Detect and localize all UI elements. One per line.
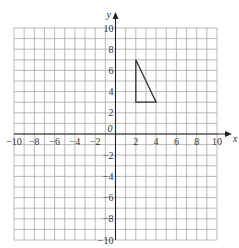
x-tick-label: 10: [212, 136, 222, 147]
x-tick-label: −2: [90, 136, 101, 147]
y-tick-label: 2: [109, 107, 114, 118]
x-tick-label: 2: [133, 136, 138, 147]
x-axis-arrow-icon: [225, 131, 232, 137]
y-tick-label: −4: [103, 171, 114, 182]
y-tick-label: −6: [103, 192, 114, 203]
y-tick-label: −2: [103, 150, 114, 161]
y-tick-label: 6: [109, 65, 114, 76]
x-tick-label: 6: [174, 136, 179, 147]
y-axis-arrow-icon: [113, 12, 119, 19]
x-tick-label: −8: [29, 136, 40, 147]
x-tick-label: 8: [194, 136, 199, 147]
x-tick-label: −10: [6, 136, 22, 147]
y-axis-label: y: [106, 9, 112, 20]
x-tick-label: 4: [154, 136, 159, 147]
y-tick-label: 4: [109, 86, 114, 97]
y-tick-label: 8: [109, 44, 114, 55]
y-tick-label: 10: [104, 23, 114, 34]
coordinate-grid-figure: x y 0 −10−8−6−4−2246810108642−2−4−6−8−10: [0, 0, 239, 248]
y-tick-label: −10: [98, 235, 114, 246]
x-tick-label: −6: [49, 136, 60, 147]
x-tick-label: −4: [70, 136, 81, 147]
origin-label: 0: [108, 123, 113, 134]
y-tick-label: −8: [103, 213, 114, 224]
x-axis-label: x: [232, 133, 238, 144]
